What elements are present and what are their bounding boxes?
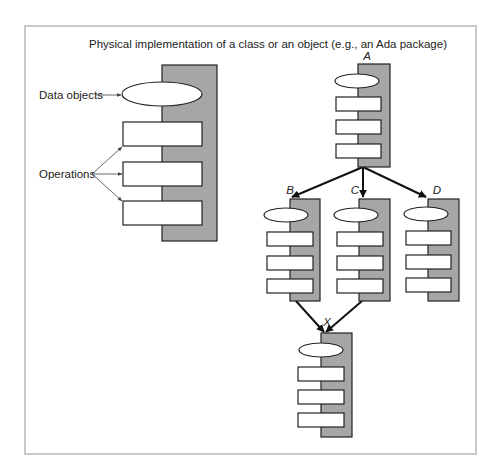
operation-box: [406, 278, 451, 292]
operations-label: Operations: [39, 168, 96, 180]
data-objects-label: Data objects: [39, 89, 103, 101]
diagram-canvas: Physical implementation of a class or an…: [0, 0, 497, 472]
operation-box: [267, 279, 313, 293]
operation-box: [298, 390, 344, 404]
operation-box: [267, 232, 313, 246]
package-label-a: A: [362, 50, 371, 62]
data-object-ellipse: [334, 208, 378, 222]
data-object-ellipse: [122, 82, 202, 106]
operation-box: [267, 256, 313, 270]
diagram-title: Physical implementation of a class or an…: [89, 38, 447, 50]
operation-box: [336, 97, 381, 111]
data-object-ellipse: [404, 207, 448, 221]
operation-box: [298, 413, 344, 427]
operation-box: [336, 144, 381, 158]
package-label-x: X: [322, 316, 332, 328]
operation-box: [336, 120, 381, 134]
operation-box: [123, 122, 202, 146]
data-object-ellipse: [335, 74, 379, 88]
operation-box: [298, 367, 344, 381]
operation-box: [337, 232, 383, 246]
data-object-ellipse: [264, 208, 308, 222]
operation-box: [406, 231, 451, 245]
operation-box: [337, 279, 383, 293]
operation-box: [337, 256, 383, 270]
package-label-c: C: [351, 184, 360, 196]
operation-box: [123, 201, 202, 225]
data-object-ellipse: [299, 343, 343, 357]
operation-box: [123, 162, 202, 186]
package-label-b: B: [286, 184, 294, 196]
package-label-d: D: [433, 184, 441, 196]
operation-box: [406, 255, 451, 269]
